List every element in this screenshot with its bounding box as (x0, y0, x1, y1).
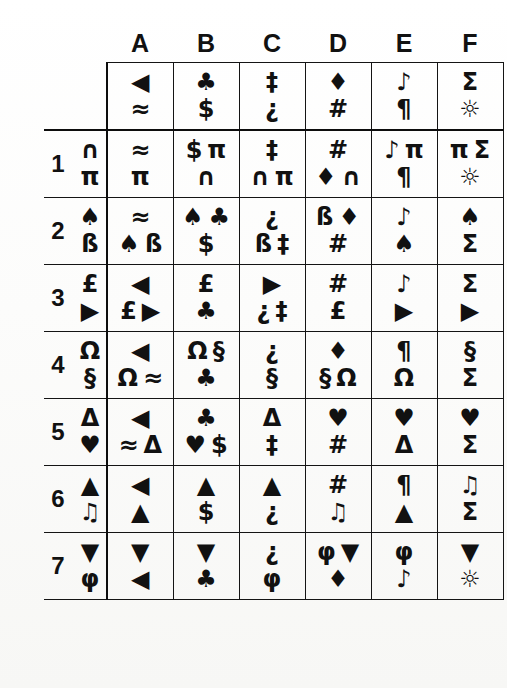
cell-e3[interactable]: ♪▶ (371, 265, 437, 332)
cell-glyph-top: £ (198, 272, 215, 297)
cell-glyph-bottom: Ω≈ (117, 366, 163, 391)
cell-glyph-bottom: ♠ (393, 232, 415, 257)
cell-a7[interactable]: ▼◀ (107, 533, 173, 600)
cell-glyph-bottom: $ (198, 232, 215, 257)
cell-c2[interactable]: ¿ß‡ (239, 198, 305, 265)
cell-f3[interactable]: Σ▶ (437, 265, 503, 332)
cell-c6[interactable]: ▲¿ (239, 466, 305, 533)
glyph: ▶ (263, 272, 281, 297)
cell-a2[interactable]: ≈♠ß (107, 198, 173, 265)
cell-b4[interactable]: Ω§♣ (173, 332, 239, 399)
cell-glyph-bottom: § (266, 366, 278, 391)
cell-c3[interactable]: ▶¿‡ (239, 265, 305, 332)
glyph-stack: φ♪ (372, 540, 437, 591)
glyph-stack: ≈♠ß (108, 205, 173, 256)
cell-glyph-top: § (464, 339, 476, 364)
cell-d3[interactable]: #£ (305, 265, 371, 332)
key-cell-e[interactable]: ♪¶ (371, 63, 437, 131)
glyph: φ (317, 540, 336, 565)
glyph-stack: ♠Σ (438, 205, 503, 256)
cell-b1[interactable]: $π∩ (173, 130, 239, 198)
cell-b6[interactable]: ▲$ (173, 466, 239, 533)
glyph: ▲ (81, 473, 99, 498)
cell-c4[interactable]: ¿§ (239, 332, 305, 399)
cell-f6[interactable]: ♫Σ (437, 466, 503, 533)
table-row: 3£▶◀£▶£♣▶¿‡#£♪▶Σ▶ (44, 265, 503, 332)
cell-b7[interactable]: ▼♣ (173, 533, 239, 600)
cell-e1[interactable]: ♪π¶ (371, 130, 437, 198)
glyph: § (319, 366, 331, 391)
cell-a4[interactable]: ◀Ω≈ (107, 332, 173, 399)
key-cell-c[interactable]: ‡¿ (239, 63, 305, 131)
glyph: Ω (394, 366, 414, 391)
glyph: ≈ (130, 205, 150, 230)
key-cell-f[interactable]: Σ☼ (437, 63, 503, 131)
cell-d6[interactable]: #♫ (305, 466, 371, 533)
cell-c1[interactable]: ‡∩π (239, 130, 305, 198)
cell-glyph-bottom: Ω (394, 366, 414, 391)
glyph: π (450, 138, 469, 163)
cell-e2[interactable]: ♪♠ (371, 198, 437, 265)
cell-a5[interactable]: ◀≈Δ (107, 399, 173, 466)
table-row: 7▼φ▼◀▼♣¿φφ▼♦φ♪▼☼ (44, 533, 503, 600)
cell-b3[interactable]: £♣ (173, 265, 239, 332)
cell-f4[interactable]: §Σ (437, 332, 503, 399)
cell-f2[interactable]: ♠Σ (437, 198, 503, 265)
cell-glyph-top: Δ (263, 406, 282, 431)
cell-d2[interactable]: ß♦# (305, 198, 371, 265)
cell-e5[interactable]: ♥Δ (371, 399, 437, 466)
key-cell-a[interactable]: ◀≈ (107, 63, 173, 131)
cell-a6[interactable]: ◀▲ (107, 466, 173, 533)
cell-d4[interactable]: ♦§Ω (305, 332, 371, 399)
cell-f7[interactable]: ▼☼ (437, 533, 503, 600)
cell-d5[interactable]: ♥# (305, 399, 371, 466)
glyph-stack: ♦# (306, 70, 371, 121)
cell-glyph-bottom: # (328, 433, 348, 458)
cell-glyph-top: ¿ (265, 540, 279, 565)
cell-f1[interactable]: πΣ☼ (437, 130, 503, 198)
glyph: Σ (474, 138, 490, 163)
cell-e7[interactable]: φ♪ (371, 533, 437, 600)
cell-e6[interactable]: ¶▲ (371, 466, 437, 533)
glyph: π (81, 165, 100, 190)
glyph-stack: ♠♣$ (174, 205, 239, 256)
row-label-wrap: 3£▶ (44, 265, 106, 331)
key-glyph-top: ♣ (195, 70, 217, 95)
cell-e4[interactable]: ¶Ω (371, 332, 437, 399)
cell-d7[interactable]: φ▼♦ (305, 533, 371, 600)
cell-d1[interactable]: #♦∩ (305, 130, 371, 198)
glyph-stack: ▲¿ (240, 473, 305, 524)
cell-glyph-bottom: ¿‡ (257, 299, 288, 324)
glyph-stack: ¿ß‡ (240, 205, 305, 256)
cell-f5[interactable]: ♥Σ (437, 399, 503, 466)
cell-c7[interactable]: ¿φ (239, 533, 305, 600)
glyph-stack: ß♦# (306, 205, 371, 256)
cell-a1[interactable]: ≈π (107, 130, 173, 198)
key-row-label-cell (44, 63, 107, 131)
cell-b5[interactable]: ♣♥$ (173, 399, 239, 466)
cell-a3[interactable]: ◀£▶ (107, 265, 173, 332)
cell-glyph-top: ♠♣ (182, 205, 230, 230)
glyph-stack: £▶ (74, 272, 106, 323)
cell-b2[interactable]: ♠♣$ (173, 198, 239, 265)
key-cell-d[interactable]: ♦# (305, 63, 371, 131)
glyph-stack: Δ♥ (74, 406, 106, 457)
glyph: Ω (187, 339, 207, 364)
glyph: ♪ (384, 138, 399, 163)
glyph: ◀ (131, 339, 149, 364)
row-number: 3 (50, 286, 66, 310)
cell-glyph-top: ▶ (263, 272, 281, 297)
cell-glyph-bottom: ▲ (395, 500, 413, 525)
glyph-stack: ◀≈Δ (108, 406, 173, 457)
key-cell-b[interactable]: ♣$ (173, 63, 239, 131)
cell-glyph-bottom: ♦ (327, 567, 349, 592)
glyph: ♠ (182, 205, 204, 230)
glyph: ◀ (131, 70, 149, 95)
row-header-1: 1∩π (44, 130, 107, 198)
cell-c5[interactable]: Δ‡ (239, 399, 305, 466)
glyph: ¿ (265, 540, 279, 565)
glyph: ♠ (393, 232, 415, 257)
cell-glyph-bottom: ß‡ (255, 232, 289, 257)
row-label-glyph-top: ♠ (79, 205, 101, 230)
key-glyph-top: ◀ (131, 70, 149, 95)
